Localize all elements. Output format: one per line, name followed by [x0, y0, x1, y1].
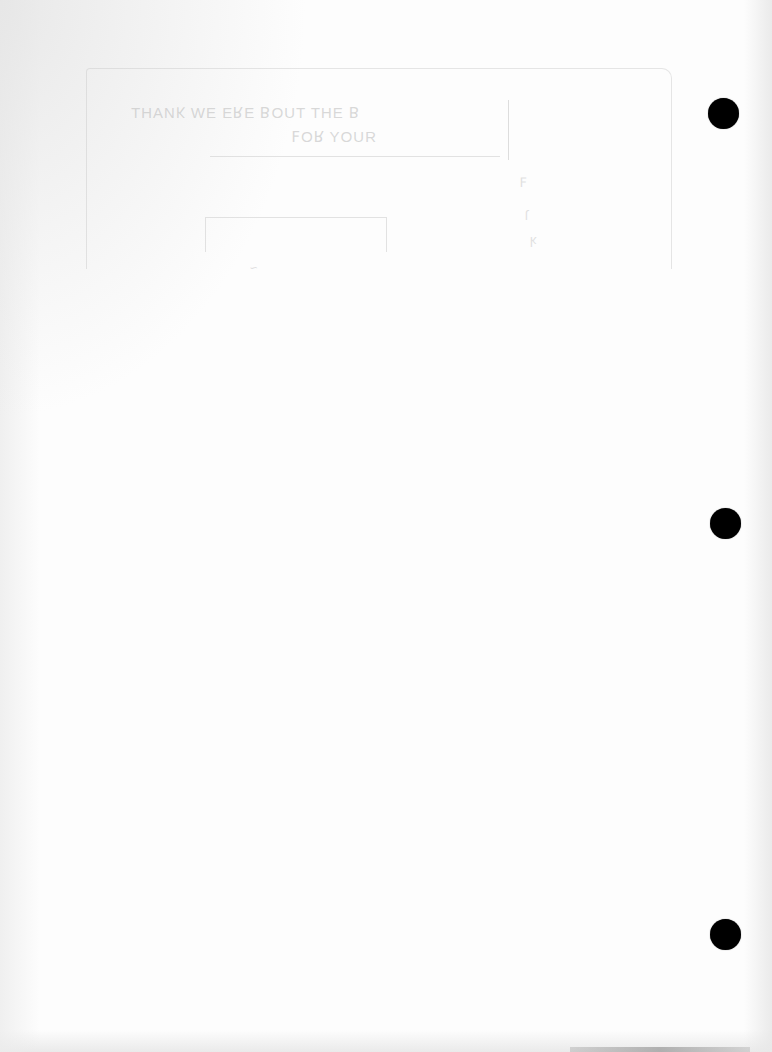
- binder-hole-bottom: [710, 919, 741, 950]
- scan-edge-shadow: [570, 1047, 750, 1052]
- bleed-through-mark: ʞ: [530, 232, 537, 247]
- binder-hole-top: [708, 98, 739, 129]
- scanned-page: ꓭ ƎHT TUOꓭ ƎꓤƎ ƎW ʞИAHT ЯUOY ꓤOꟻ ꟻ ɿ ʞ ~: [0, 0, 772, 1052]
- bleed-through-underline: [210, 156, 500, 157]
- bleed-through-bracket: [508, 100, 515, 160]
- bleed-through-mark: ꟻ: [520, 175, 527, 190]
- bleed-through-text-line-1: ꓭ ƎHT TUOꓭ ƎꓤƎ ƎW ʞИAHT: [130, 102, 359, 122]
- bleed-through-box: [205, 217, 387, 252]
- bleed-through-mark: ɿ: [525, 205, 529, 220]
- binder-hole-middle: [710, 508, 741, 539]
- bleed-through-mark: ~: [250, 260, 258, 275]
- bleed-through-text-line-2: ЯUOY ꓤOꟻ: [290, 128, 376, 146]
